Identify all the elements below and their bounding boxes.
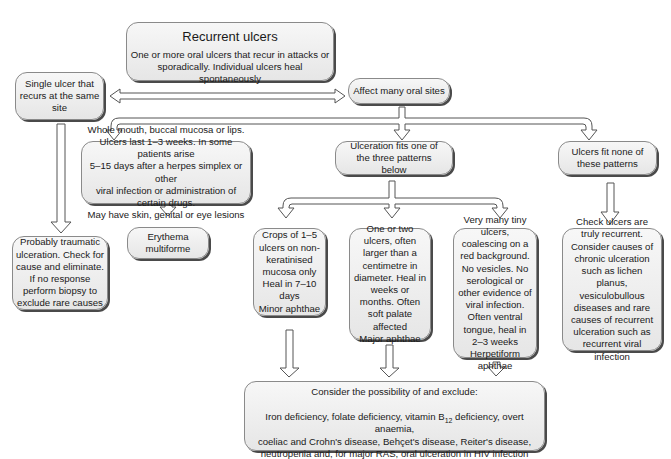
traumatic-box: Probably traumatic ulceration. Check for…	[12, 236, 108, 310]
minor-text: Crops of 1–5 ulcers on non-keratinised m…	[257, 229, 322, 302]
whole-mouth-line-1: Whole mouth, buccal mucosa or lips.	[85, 124, 247, 136]
exclude-line-3: neutropenia and, for major RAS, oral ulc…	[248, 448, 541, 459]
major-text: One or two ulcers, often larger than a c…	[353, 223, 427, 333]
whole-mouth-box: Whole mouth, buccal mucosa or lips. Ulce…	[81, 141, 251, 204]
whole-mouth-line-5: May have skin, genital or eye lesions	[85, 209, 247, 221]
exclude-line-1a: Iron deficiency, folate deficiency, vita…	[265, 411, 444, 422]
fits-none-text: Ulcers fit none of these patterns	[562, 146, 653, 170]
check-recurrent-text: Check ulcers are truly recurrent. Consid…	[566, 216, 658, 362]
herpetiform-label: Herpetiform aphthae	[457, 348, 533, 372]
double-arrow	[110, 89, 345, 103]
arrow-single-to-traumatic	[51, 124, 71, 233]
erythema-text: Erythema multiforme	[131, 231, 205, 255]
arrow-major-to-exclude	[380, 345, 399, 377]
major-aphthae-box: One or two ulcers, often larger than a c…	[349, 228, 431, 340]
herpetiform-aphthae-box: Very many tiny ulcers, coalescing on a r…	[453, 228, 537, 358]
many-sites-text: Affect many oral sites	[352, 85, 446, 97]
arrow-minor-to-exclude	[280, 330, 299, 377]
fits-none-box: Ulcers fit none of these patterns	[558, 141, 657, 175]
exclude-line-2: coeliac and Crohn's disease, Behçet's di…	[248, 436, 541, 448]
root-text: One or more oral ulcers that recur in at…	[130, 49, 330, 86]
fits-patterns-box: Ulceration fits one of the three pattern…	[335, 141, 453, 175]
herpetiform-text: Very many tiny ulcers, coalescing on a r…	[457, 214, 533, 348]
recurrent-ulcers-box: Recurrent ulcers One or more oral ulcers…	[126, 22, 334, 81]
major-label: Major aphthae	[353, 333, 427, 345]
branch-arrow-patterns	[278, 181, 508, 218]
exclude-line-1: Iron deficiency, folate deficiency, vita…	[248, 411, 541, 435]
minor-aphthae-box: Crops of 1–5 ulcers on non-keratinised m…	[253, 228, 326, 316]
whole-mouth-line-2: Ulcers last 1–3 weeks. In some patients …	[85, 136, 247, 160]
single-site-box: Single ulcer that recurs at the same sit…	[15, 72, 104, 120]
check-recurrent-box: Check ulcers are truly recurrent. Consid…	[562, 228, 662, 351]
exclude-title: Consider the possibility of and exclude:	[248, 386, 541, 398]
single-site-text: Single ulcer that recurs at the same sit…	[19, 78, 100, 115]
traumatic-text: Probably traumatic ulceration. Check for…	[16, 236, 104, 309]
minor-label: Minor aphthae	[257, 303, 322, 315]
whole-mouth-line-4: viral infection or administration of cer…	[85, 185, 247, 209]
fits-patterns-text: Ulceration fits one of the three pattern…	[339, 140, 449, 177]
whole-mouth-line-3: 5–15 days after a herpes simplex or othe…	[85, 160, 247, 184]
erythema-box: Erythema multiforme	[127, 227, 209, 259]
many-sites-box: Affect many oral sites	[348, 78, 450, 104]
exclude-box: Consider the possibility of and exclude:…	[244, 381, 545, 451]
root-title: Recurrent ulcers	[130, 29, 330, 45]
